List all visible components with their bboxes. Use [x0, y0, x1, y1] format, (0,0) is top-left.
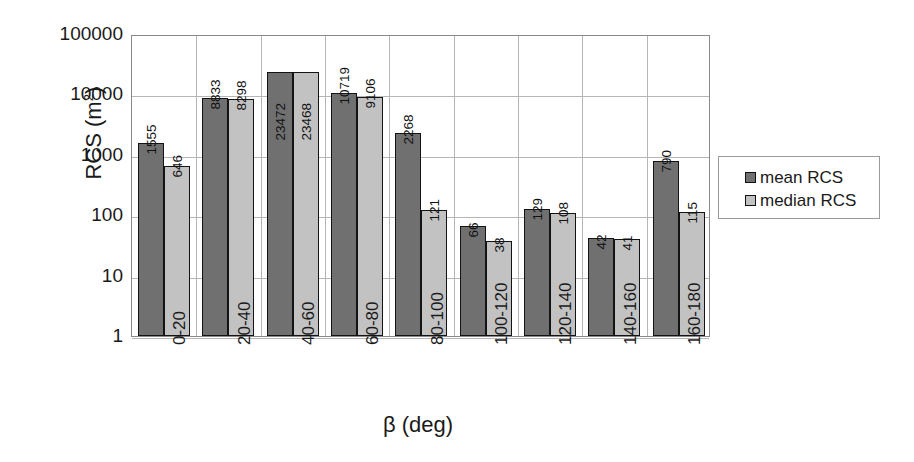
x-axis-tick-label: 160-180 [686, 327, 703, 345]
bar-value-label: 646 [171, 155, 185, 178]
y-axis-tick-label: 10 [31, 266, 123, 285]
x-axis-tick-label: 40-60 [300, 327, 317, 345]
bar-value-label: 790 [659, 150, 673, 173]
rcs-bar-chart: RCS (m2) 100000100001000100101 155564688… [0, 0, 914, 462]
bar-value-label: 115 [685, 202, 699, 224]
x-axis-tick-label: 0-20 [171, 327, 188, 345]
bar-value-label: 8298 [235, 81, 249, 111]
bar-group: 88338298 [196, 36, 260, 336]
bar-mean-rcs [460, 226, 486, 336]
x-axis-tick-label: 100-120 [493, 327, 510, 345]
bar-mean-rcs [653, 161, 679, 336]
legend-swatch-mean [745, 172, 756, 183]
y-axis-tick-label: 1000 [31, 145, 123, 164]
legend-entry-median: median RCS [745, 189, 879, 212]
bar-value-label: 108 [557, 202, 571, 225]
y-axis-title-base: RCS (m [81, 101, 106, 179]
bar-value-label: 42 [595, 234, 609, 249]
bar-value-label: 41 [621, 235, 635, 250]
legend-swatch-median [745, 195, 756, 206]
bar-value-label: 121 [428, 199, 442, 222]
y-axis-title: RCS (m2) [81, 33, 107, 233]
bar-value-label: 1555 [145, 125, 159, 155]
y-axis-tick-label: 100 [31, 205, 123, 224]
legend-label-median: median RCS [760, 192, 856, 209]
x-axis-tick-label: 60-80 [364, 327, 381, 345]
bar-group: 107199106 [325, 36, 389, 336]
bar-group: 2268121 [389, 36, 453, 336]
bar-value-label: 23468 [299, 103, 313, 141]
y-axis-tick-label: 10000 [31, 84, 123, 103]
bar-value-label: 2268 [402, 115, 416, 145]
x-axis-tick-label: 20-40 [236, 327, 253, 345]
bar-value-label: 66 [466, 223, 480, 238]
x-axis-tick-label: 80-100 [429, 327, 446, 345]
bar-mean-rcs [524, 209, 550, 336]
chart-legend: mean RCS median RCS [718, 156, 880, 219]
bar-value-label: 38 [492, 237, 506, 252]
y-axis-tick-label: 1 [31, 326, 123, 345]
bar-mean-rcs [331, 93, 357, 336]
legend-entry-mean: mean RCS [745, 166, 879, 189]
bar-value-label: 8833 [209, 79, 223, 109]
bar-group: 1555646 [132, 36, 196, 336]
x-axis-tick-label: 120-140 [557, 327, 574, 345]
bar-median-rcs [357, 97, 383, 336]
bar-value-label: 23472 [273, 103, 287, 141]
bar-value-label: 9106 [364, 78, 378, 108]
bar-group: 2347223468 [261, 36, 325, 336]
bar-value-label: 10719 [338, 67, 352, 105]
bar-mean-rcs [588, 238, 614, 336]
bar-mean-rcs [202, 98, 228, 336]
bar-mean-rcs [395, 133, 421, 336]
legend-label-mean: mean RCS [760, 169, 843, 186]
y-axis-tick-label: 100000 [31, 24, 123, 43]
x-axis-title: β (deg) [318, 412, 518, 438]
x-axis-tick-label: 140-160 [622, 327, 639, 345]
bar-mean-rcs [138, 143, 164, 336]
bar-median-rcs [228, 99, 254, 336]
bar-value-label: 129 [531, 197, 545, 220]
